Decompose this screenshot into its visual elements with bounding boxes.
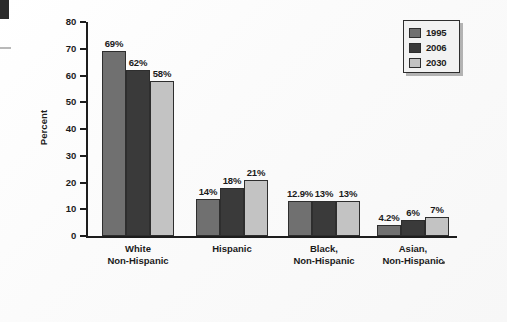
y-axis-tick xyxy=(80,75,86,77)
bar xyxy=(102,51,126,236)
y-axis-tick-label: 0 xyxy=(52,230,76,241)
y-axis-tick-label: 30 xyxy=(52,150,76,161)
bar xyxy=(288,201,312,236)
chart-screenshot: Percent 01020304050607080 69%62%58%14%18… xyxy=(0,0,507,322)
legend-item: 2006 xyxy=(409,40,459,55)
legend-item-label: 1995 xyxy=(426,27,446,38)
bar xyxy=(150,81,174,236)
bar xyxy=(377,225,401,236)
legend-swatch-icon xyxy=(409,28,421,38)
bar-value-label: 13% xyxy=(328,188,368,199)
y-axis-tick-label: 80 xyxy=(52,16,76,27)
y-axis-tick xyxy=(80,101,86,103)
y-axis-tick xyxy=(80,208,86,210)
bar-value-label: 62% xyxy=(118,57,158,68)
x-axis-category-label-line: Black, xyxy=(279,243,369,255)
x-axis-category-label: Black,Non-Hispanic xyxy=(279,243,369,267)
bar xyxy=(126,70,150,236)
bar-value-label: 69% xyxy=(94,38,134,49)
y-axis-tick xyxy=(80,155,86,157)
bar xyxy=(425,217,449,236)
x-axis-category-label-line: Hispanic xyxy=(187,243,277,255)
y-axis-tick xyxy=(80,235,86,237)
legend-item: 1995 xyxy=(409,25,459,40)
y-axis-tick xyxy=(80,182,86,184)
legend-swatch-icon xyxy=(409,43,421,53)
legend-swatch-icon xyxy=(409,58,421,68)
y-axis-tick-label: 10 xyxy=(52,203,76,214)
y-axis-tick xyxy=(80,128,86,130)
y-axis-tick-label: 50 xyxy=(52,96,76,107)
x-axis-category-label: WhiteNon-Hispanic xyxy=(93,243,183,267)
legend-item: 2030 xyxy=(409,55,459,70)
y-axis-line xyxy=(86,22,88,238)
x-axis-category-label: Asian,Non-Hispanic xyxy=(368,243,458,267)
bar-value-label: 14% xyxy=(188,186,228,197)
bar-value-label: 21% xyxy=(236,167,276,178)
bar-chart-plot-area: Percent 01020304050607080 69%62%58%14%18… xyxy=(0,0,507,322)
y-axis-tick xyxy=(80,21,86,23)
y-axis-tick-label: 20 xyxy=(52,177,76,188)
legend-item-label: 2006 xyxy=(426,42,446,53)
bar xyxy=(312,201,336,236)
y-axis-tick-label: 60 xyxy=(52,70,76,81)
bar-value-label: 58% xyxy=(142,68,182,79)
legend-item-label: 2030 xyxy=(426,57,446,68)
x-axis-category-label-line: Non-Hispanic xyxy=(368,255,458,267)
bar xyxy=(244,180,268,236)
y-axis-tick-label: 40 xyxy=(52,123,76,134)
y-axis-tick-label: 70 xyxy=(52,43,76,54)
x-axis-category-label-line: Non-Hispanic xyxy=(279,255,369,267)
bar xyxy=(336,201,360,236)
bar-value-label: 7% xyxy=(417,204,457,215)
x-axis-category-label: Hispanic xyxy=(187,243,277,255)
x-axis-category-label-line: Non-Hispanic xyxy=(93,255,183,267)
y-axis-tick xyxy=(80,48,86,50)
y-axis-title: Percent xyxy=(38,83,49,173)
x-axis-category-label-line: Asian, xyxy=(368,243,458,255)
chart-legend: 199520062030 xyxy=(403,20,460,73)
bar xyxy=(196,199,220,236)
x-axis-category-label-line: White xyxy=(93,243,183,255)
x-axis-line xyxy=(86,236,457,238)
